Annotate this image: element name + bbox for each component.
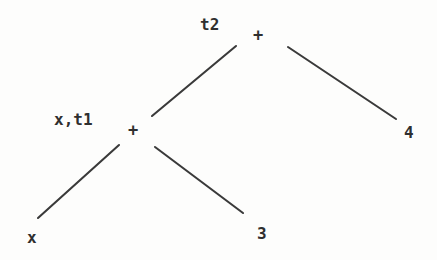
- node-operator-root: +: [253, 27, 263, 44]
- edge-root-to-left-child: [152, 46, 236, 116]
- leaf-node-3: 3: [257, 226, 267, 242]
- node-label-x-t1: x,t1: [54, 112, 93, 128]
- leaf-node-x: x: [27, 230, 37, 246]
- node-label-t2: t2: [200, 17, 219, 33]
- edge-inner-to-leaf-3: [155, 147, 243, 213]
- expression-tree-diagram: t2 + x,t1 + x 3 4: [0, 0, 437, 260]
- edge-root-to-leaf-4: [288, 47, 396, 119]
- tree-edges-layer: [0, 0, 437, 260]
- edge-inner-to-leaf-x: [38, 145, 119, 218]
- node-operator-inner: +: [128, 122, 138, 139]
- leaf-node-4: 4: [404, 125, 414, 141]
